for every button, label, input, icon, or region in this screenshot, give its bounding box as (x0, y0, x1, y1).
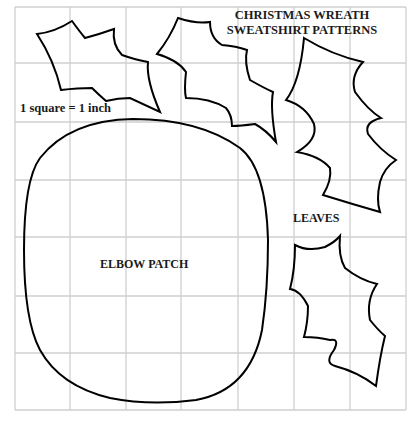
holly-leaf-1 (37, 21, 160, 112)
elbow-patch-label: ELBOW PATCH (100, 257, 188, 272)
holly-leaf-3 (286, 38, 396, 212)
holly-leaf-4 (290, 236, 385, 386)
page-title: CHRISTMAS WREATH SWEATSHIRT PATTERNS (212, 8, 392, 38)
scale-note: 1 square = 1 inch (20, 101, 111, 116)
title-line-2: SWEATSHIRT PATTERNS (212, 23, 392, 38)
grid (15, 7, 406, 410)
title-line-1: CHRISTMAS WREATH (212, 8, 392, 23)
pattern-sheet (0, 0, 419, 425)
leaves-label: LEAVES (293, 211, 339, 226)
